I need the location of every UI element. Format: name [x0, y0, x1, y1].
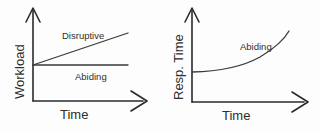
resptime-y-axis-label: Resp. Time: [171, 34, 186, 100]
workload-series-disruptive-label: Disruptive: [62, 30, 104, 41]
figure-canvas: Disruptive Abiding Time Workload Abiding…: [0, 0, 319, 131]
workload-y-axis-label: Workload: [12, 44, 27, 99]
response-time-chart: Abiding Time Resp. Time: [160, 0, 319, 131]
workload-series-abiding-label: Abiding: [75, 71, 107, 82]
workload-x-axis-label: Time: [60, 107, 88, 122]
workload-chart: Disruptive Abiding Time Workload: [0, 0, 160, 131]
resptime-x-axis-label: Time: [222, 108, 250, 123]
resptime-series-abiding-label: Abiding: [240, 41, 272, 52]
